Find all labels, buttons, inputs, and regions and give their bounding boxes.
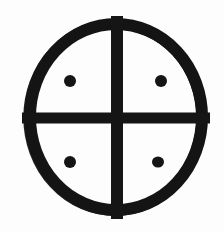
dot-top-left bbox=[64, 75, 76, 87]
dot-bottom-right bbox=[152, 157, 164, 168]
dot-top-right bbox=[155, 75, 167, 87]
sun-cross-symbol bbox=[0, 0, 224, 232]
symbol-canvas bbox=[0, 0, 224, 232]
dot-bottom-left bbox=[64, 156, 76, 168]
cross-horizontal-bar bbox=[22, 113, 210, 124]
